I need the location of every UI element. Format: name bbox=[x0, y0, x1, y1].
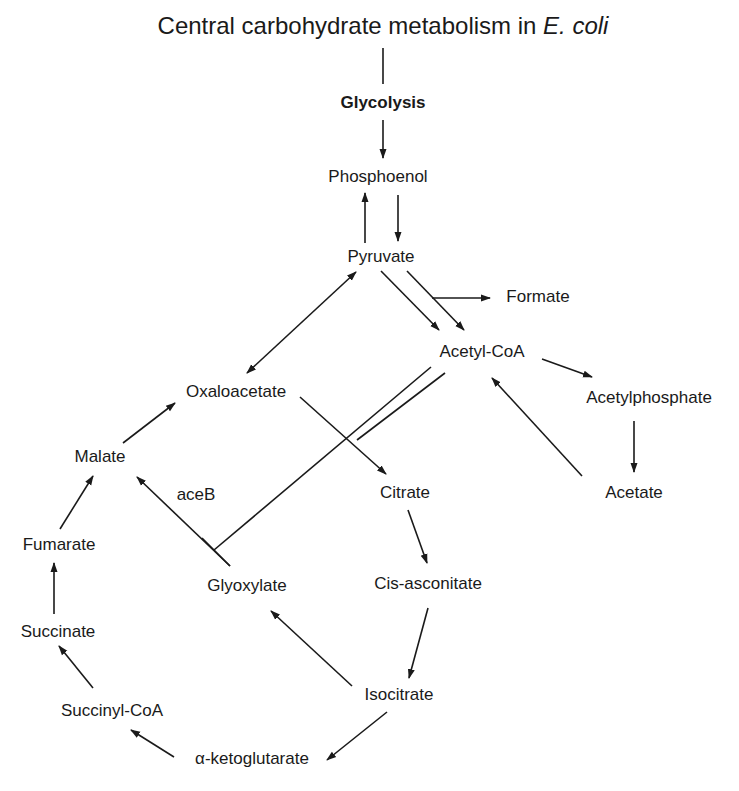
pathway-nodes: Glycolysis Phosphoenol Pyruvate Formate … bbox=[21, 93, 712, 768]
edge-acetate-to-acetyl_coa bbox=[492, 378, 582, 476]
edge-acetyl_coa-to-oxaloacetate-citrate-junction bbox=[357, 373, 445, 440]
edge-isocitrate-to-glyoxylate bbox=[271, 611, 352, 686]
enzyme-label-aceb: aceB bbox=[177, 485, 216, 504]
node-acetylphosphate: Acetylphosphate bbox=[586, 388, 712, 407]
node-succinate: Succinate bbox=[21, 622, 96, 641]
node-oxaloacetate: Oxaloacetate bbox=[186, 382, 286, 401]
node-acetyl-coa: Acetyl-CoA bbox=[439, 342, 525, 361]
edge-isocitrate-to-alpha_ketoglutarate bbox=[327, 712, 387, 760]
node-succinyl-coa: Succinyl-CoA bbox=[61, 701, 164, 720]
node-malate: Malate bbox=[74, 447, 125, 466]
title-main-text: Central carbohydrate metabolism in bbox=[158, 12, 544, 39]
node-pyruvate: Pyruvate bbox=[347, 247, 414, 266]
node-acetate: Acetate bbox=[605, 483, 663, 502]
edge-oxaloacetate-to-citrate bbox=[300, 397, 386, 474]
node-phosphoenol: Phosphoenol bbox=[328, 167, 427, 186]
edge-oxaloacetate-to-pyruvate bbox=[247, 272, 356, 373]
node-cis-asconitate: Cis-asconitate bbox=[374, 574, 482, 593]
edge-acetyl_coa-to-acetylphosphate bbox=[542, 359, 592, 377]
node-citrate: Citrate bbox=[380, 483, 430, 502]
node-glycolysis: Glycolysis bbox=[340, 93, 425, 112]
edge-succinyl_coa-to-succinate bbox=[59, 646, 93, 688]
edge-pyruvate-to-acetyl_coa bbox=[381, 271, 439, 330]
node-alpha-ketoglutarate: α-ketoglutarate bbox=[195, 749, 309, 768]
edge-fumarate-to-malate bbox=[60, 476, 93, 529]
diagram-title: Central carbohydrate metabolism in E. co… bbox=[158, 12, 610, 39]
title-organism-text: E. coli bbox=[543, 12, 609, 39]
edge-alpha_ketoglutarate-to-succinyl_coa bbox=[131, 730, 174, 757]
edge-cis_asconitate-to-isocitrate bbox=[409, 608, 428, 678]
edge-pyruvate-to-acetyl_coa bbox=[407, 271, 464, 330]
edge-citrate-to-cis_asconitate bbox=[408, 510, 427, 563]
metabolism-diagram: Central carbohydrate metabolism in E. co… bbox=[0, 0, 739, 791]
node-formate: Formate bbox=[506, 287, 569, 306]
node-glyoxylate: Glyoxylate bbox=[207, 576, 286, 595]
node-fumarate: Fumarate bbox=[23, 535, 96, 554]
pathway-edges bbox=[54, 48, 634, 760]
edge-malate-to-oxaloacetate bbox=[123, 403, 175, 443]
node-isocitrate: Isocitrate bbox=[365, 685, 434, 704]
